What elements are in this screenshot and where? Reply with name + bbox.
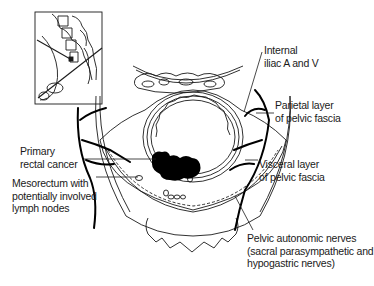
inset-sagittal-view bbox=[35, 12, 102, 104]
tumor-mass bbox=[152, 152, 201, 181]
label-internal-iliac: Internal iliac A and V bbox=[264, 44, 319, 69]
label-primary-cancer: Primary rectal cancer bbox=[20, 145, 78, 170]
label-pelvic-nerves: Pelvic autonomic nerves (sacral parasymp… bbox=[247, 232, 374, 270]
label-parietal-layer: Parietal layer of pelvic fascia bbox=[275, 99, 341, 124]
label-mesorectum: Mesorectum with potentially involved lym… bbox=[12, 177, 97, 215]
label-visceral-layer: Visceral layer of pelvic fascia bbox=[259, 158, 325, 183]
